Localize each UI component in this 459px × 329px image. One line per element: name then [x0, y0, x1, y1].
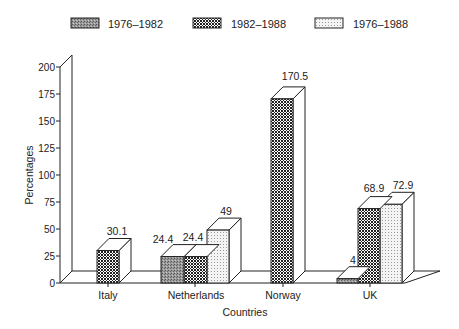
bar-uk-1976-1988 — [380, 192, 414, 283]
y-tick-label: 100 — [38, 170, 55, 181]
x-axis-label: Countries — [223, 306, 268, 318]
y-tick-label: 150 — [38, 116, 55, 127]
x-axis: Italy Netherlands Norway UK Countries — [98, 283, 377, 318]
legend: 1976–1982 1982–1988 1976–1988 — [71, 18, 408, 30]
y-axis-label: Percentages — [23, 146, 35, 205]
legend-item-1976-1982: 1976–1982 — [71, 18, 163, 30]
data-label: 24.4 — [183, 231, 204, 243]
y-tick-label: 25 — [44, 251, 56, 262]
x-tick-label: UK — [363, 289, 378, 301]
y-tick-label: 200 — [38, 62, 55, 73]
data-label: 30.1 — [107, 225, 128, 237]
legend-label: 1976–1982 — [108, 18, 163, 30]
y-tick-label: 125 — [38, 143, 55, 154]
data-label: 170.5 — [282, 70, 308, 82]
legend-swatch-crosshatch — [193, 18, 221, 28]
legend-label: 1982–1988 — [231, 18, 286, 30]
y-tick-label: 0 — [49, 278, 55, 289]
data-label: 4 — [350, 254, 356, 266]
legend-item-1976-1988: 1976–1988 — [315, 18, 408, 30]
data-label: 68.9 — [364, 182, 385, 194]
x-tick-label: Italy — [98, 289, 118, 301]
data-label: 24.4 — [153, 233, 174, 245]
legend-label: 1976–1988 — [353, 18, 408, 30]
bar-chart: 1976–1982 1982–1988 1976–1988 — [0, 0, 459, 329]
data-label: 72.9 — [393, 179, 414, 191]
legend-swatch-stipple — [71, 18, 99, 28]
y-axis-ticks: 0 25 50 75 100 125 150 175 200 — [38, 62, 60, 289]
bar-norway-1982-1988 — [271, 87, 305, 283]
y-tick-label: 175 — [38, 89, 55, 100]
bar-italy-1982-1988 — [97, 239, 131, 284]
x-tick-label: Netherlands — [168, 289, 225, 301]
y-tick-label: 75 — [44, 197, 56, 208]
x-tick-label: Norway — [265, 289, 301, 301]
legend-swatch-dots — [315, 18, 343, 28]
legend-item-1982-1988: 1982–1988 — [193, 18, 286, 30]
data-label: 49 — [220, 205, 232, 217]
y-tick-label: 50 — [44, 224, 56, 235]
